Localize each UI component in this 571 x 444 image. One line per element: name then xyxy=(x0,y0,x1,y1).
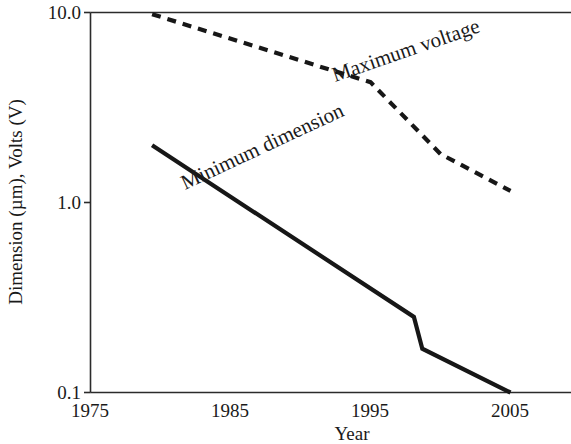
x-tick-label-1975: 1975 xyxy=(71,400,109,421)
x-tick-label-2005: 2005 xyxy=(491,400,529,421)
x-axis-title: Year xyxy=(334,423,370,444)
annotation-maximum-voltage: Maximum voltage xyxy=(329,14,483,87)
y-tick-label-1: 1.0 xyxy=(57,192,81,213)
x-tick-label-1985: 1985 xyxy=(211,400,249,421)
y-axis-title: Dimension (µm), Volts (V) xyxy=(5,99,27,305)
x-tick-label-1995: 1995 xyxy=(351,400,389,421)
chart-figure: 10.0 1.0 0.1 1975 1985 1995 2005 Year Di… xyxy=(0,0,571,444)
annotation-minimum-dimension: Minimum dimension xyxy=(177,98,348,195)
y-tick-label-10: 10.0 xyxy=(48,2,81,23)
chart-svg: 10.0 1.0 0.1 1975 1985 1995 2005 Year Di… xyxy=(0,0,571,444)
